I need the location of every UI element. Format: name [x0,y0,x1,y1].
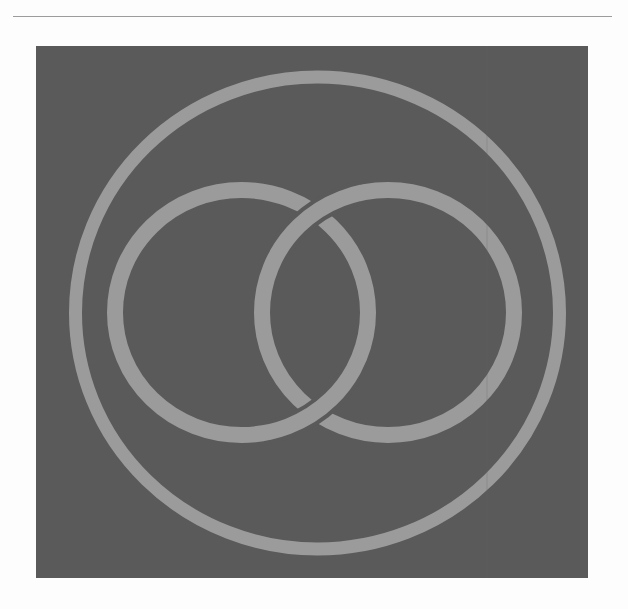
header-rule [13,16,612,17]
rings-canvas [36,46,588,578]
interlocking-rings-figure [36,46,588,578]
